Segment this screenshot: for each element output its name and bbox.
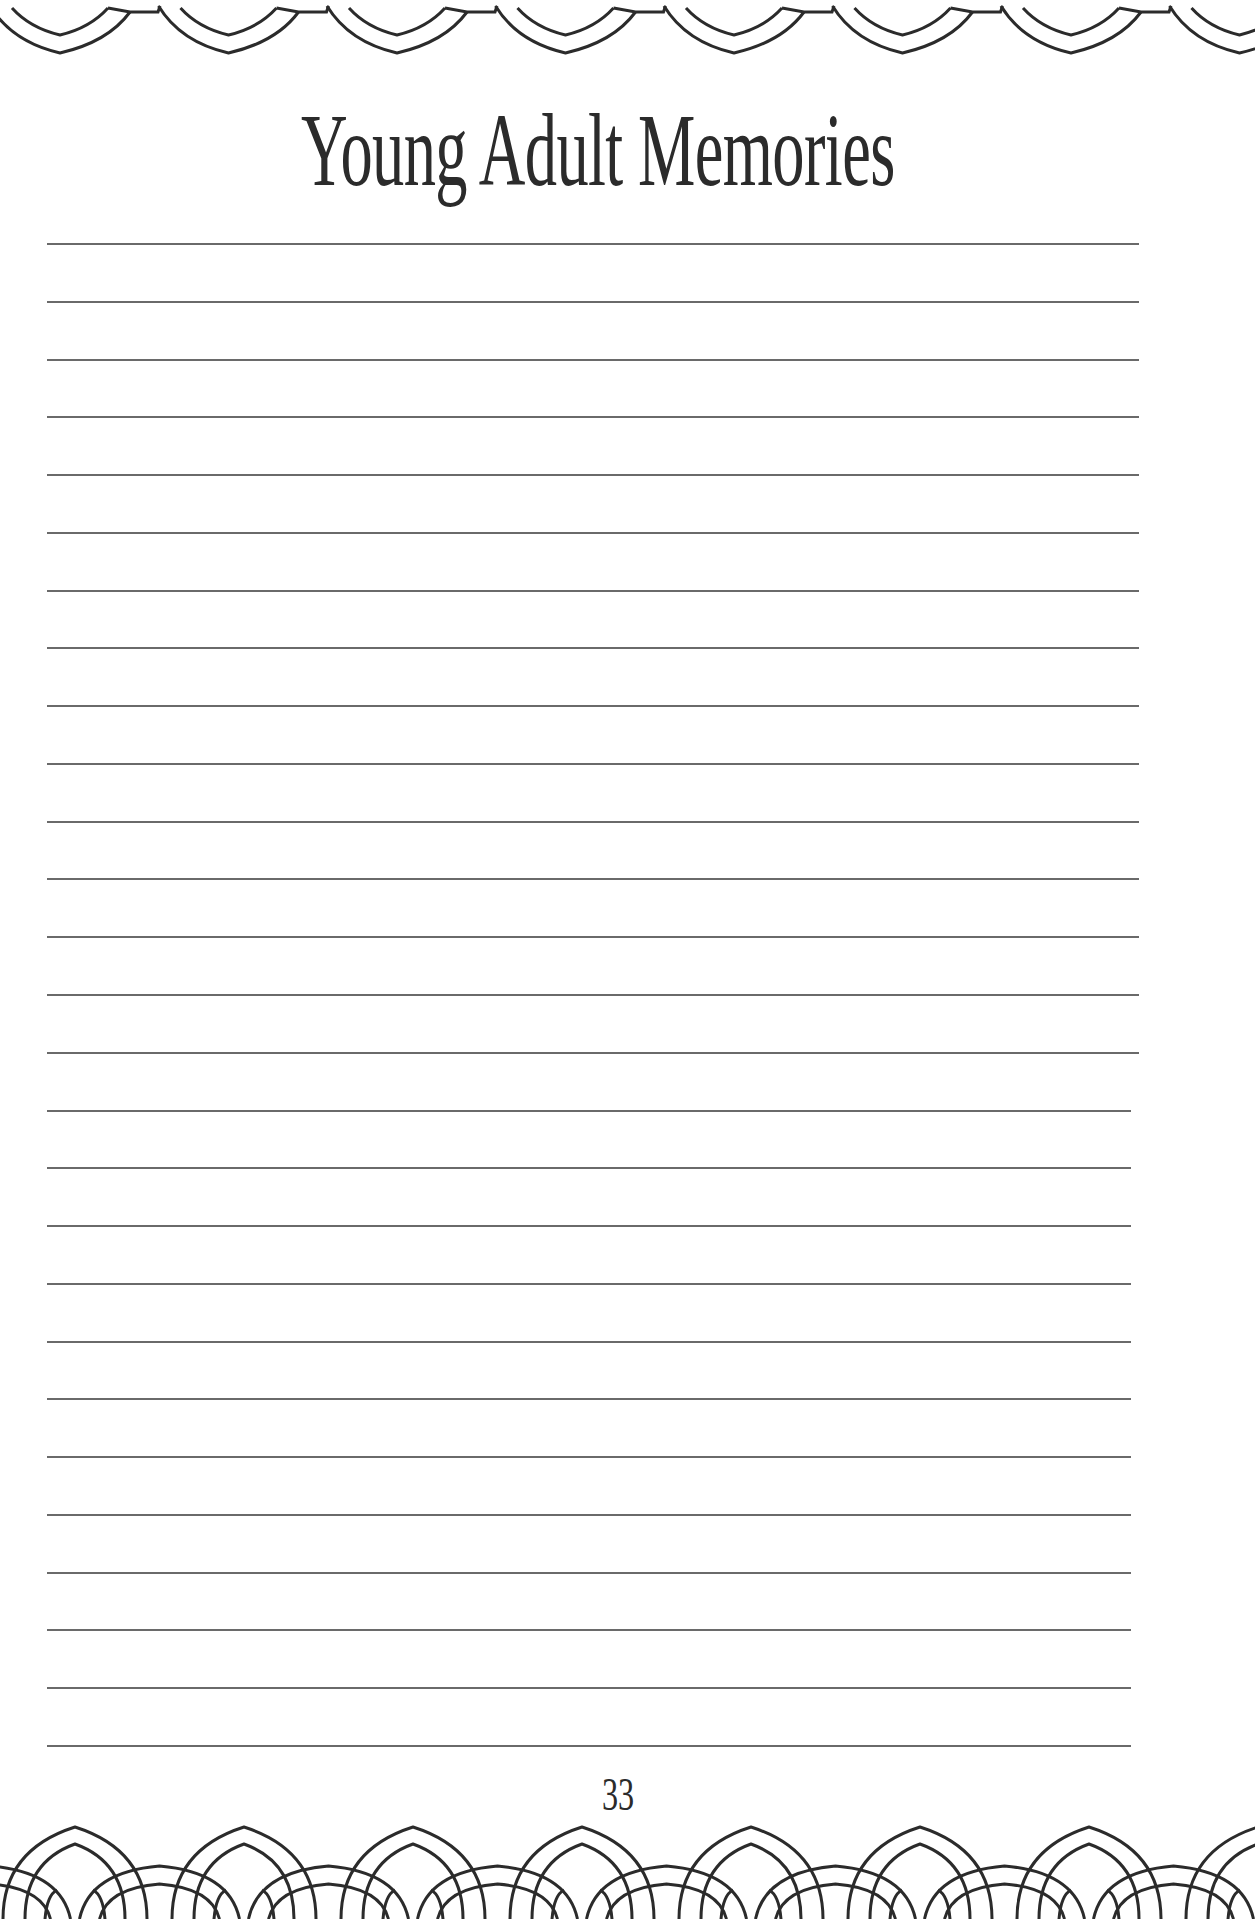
writing-line (47, 1687, 1131, 1689)
page-title-text: Young Adult Memories (301, 98, 895, 202)
writing-line (47, 1052, 1139, 1054)
writing-line (47, 705, 1139, 707)
writing-line (47, 1110, 1131, 1112)
bottom-interlocking-border-icon (0, 1815, 1255, 1919)
writing-line (47, 1167, 1131, 1169)
page-title: Young Adult Memories (0, 98, 1255, 202)
writing-line (47, 1745, 1131, 1747)
writing-line (47, 1456, 1131, 1458)
writing-line (47, 994, 1139, 996)
writing-line (47, 1629, 1131, 1631)
writing-line (47, 1225, 1131, 1227)
writing-line (47, 878, 1139, 880)
writing-line (47, 936, 1139, 938)
writing-line (47, 821, 1139, 823)
writing-line (47, 1572, 1131, 1574)
writing-line (47, 763, 1139, 765)
writing-line (47, 301, 1139, 303)
writing-line (47, 1283, 1131, 1285)
writing-line (47, 416, 1139, 418)
writing-line (47, 359, 1139, 361)
journal-page: Young Adult Memories 33 (0, 0, 1255, 1919)
writing-line (47, 590, 1139, 592)
writing-line (47, 1398, 1131, 1400)
writing-line (47, 474, 1139, 476)
writing-line (47, 243, 1139, 245)
writing-line (47, 532, 1139, 534)
top-scallop-border-icon (0, 0, 1255, 70)
writing-line (47, 1341, 1131, 1343)
writing-line (47, 647, 1139, 649)
page-number-text: 33 (601, 1772, 633, 1818)
page-number: 33 (0, 1772, 1235, 1818)
writing-line (47, 1514, 1131, 1516)
